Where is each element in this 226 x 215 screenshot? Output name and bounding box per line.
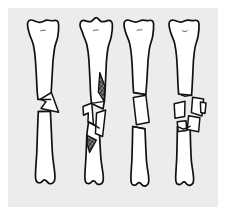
- fracture-illustration: [0, 0, 226, 215]
- displaced-mid-shaft-segment: [133, 95, 149, 125]
- tibial-plateau-mark: [41, 30, 46, 31]
- bone-fragment-3: [187, 116, 200, 132]
- figure-root: Tibia fracture pattern line drawing Butt…: [0, 0, 226, 215]
- panel-comminuted-fracture: [169, 20, 206, 185]
- panel-segmental-fracture: [124, 20, 154, 186]
- bone-fragment-5: [200, 102, 206, 113]
- panel-oblique-spiral-fracture: [80, 18, 112, 185]
- bone-fragment-2: [174, 101, 185, 118]
- tibial-plateau-mark: [137, 30, 142, 31]
- bone-distal-segment: [131, 127, 149, 187]
- tibial-plateau-mark: [93, 30, 98, 31]
- displaced-sliver-fragment-right: [95, 110, 105, 137]
- bone-proximal-segment: [124, 20, 154, 94]
- bone-proximal-segment: [27, 20, 58, 100]
- bone-distal-segment: [35, 112, 55, 184]
- bone-distal-segment: [176, 126, 194, 185]
- bone-proximal-segment: [80, 18, 112, 109]
- bone-fragment-4: [177, 121, 187, 132]
- panel-butterfly-wedge-fracture: [27, 20, 58, 184]
